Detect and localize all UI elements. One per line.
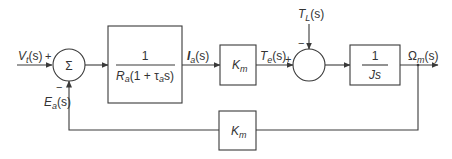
summing-junction-2 <box>293 49 325 81</box>
input-voltage-label: Vt(s) <box>18 49 43 65</box>
inertia-denominator: Js <box>368 68 381 82</box>
sigma-icon: Σ <box>65 59 72 73</box>
block-diagram: Vt(s) + Σ − 1 Ra(1 + τas) Ia(s) Km Te(s)… <box>0 0 452 159</box>
armature-numerator: 1 <box>142 49 149 63</box>
speed-output-label: Ωm(s) <box>408 49 438 65</box>
load-torque-label: TL(s) <box>298 7 324 23</box>
sum1-plus-sign: + <box>45 50 51 62</box>
sum1-minus-sign: − <box>56 81 62 93</box>
sum2-minus-sign: − <box>298 37 304 49</box>
current-signal-label: Ia(s) <box>187 49 209 65</box>
torque-signal-label: Te(s) <box>260 49 286 65</box>
sum2-plus-sign: + <box>285 53 291 65</box>
inertia-numerator: 1 <box>372 49 379 63</box>
back-emf-label: Ea(s) <box>44 95 71 111</box>
